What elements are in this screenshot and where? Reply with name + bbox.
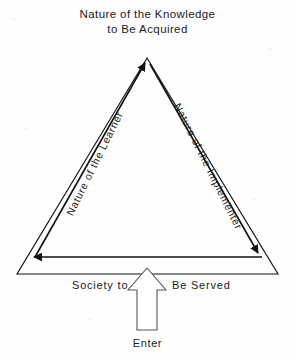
diagram-canvas: Nature of the Learner Nature of the Impl… bbox=[0, 0, 295, 357]
triangle-diagram: Nature of the Learner Nature of the Impl… bbox=[0, 0, 295, 357]
base-label-left: Society to bbox=[72, 279, 128, 291]
enter-block-arrow bbox=[128, 268, 166, 330]
apex-label: Nature of the Knowledge to Be Acquired bbox=[0, 7, 295, 37]
base-label-right: Be Served bbox=[172, 279, 231, 291]
apex-label-line-1: Nature of the Knowledge bbox=[0, 7, 295, 22]
apex-label-line-2: to Be Acquired bbox=[0, 22, 295, 37]
triangle-outline bbox=[17, 58, 278, 274]
left-edge-label: Nature of the Learner bbox=[64, 109, 126, 217]
right-edge-label: Nature of the Implementer bbox=[172, 101, 245, 231]
enter-label: Enter bbox=[0, 337, 295, 349]
